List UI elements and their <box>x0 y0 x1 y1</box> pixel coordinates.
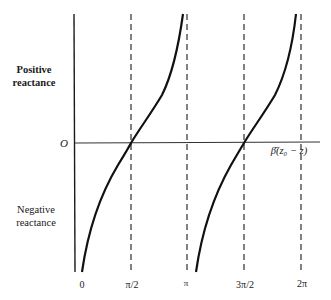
tick-label-pi: π <box>178 277 194 289</box>
y-axis <box>74 14 75 272</box>
negative-reactance-label: Negative reactance <box>6 203 66 229</box>
negative-label-line2: reactance <box>6 216 66 229</box>
positive-label-line1: Positive <box>4 63 64 76</box>
positive-label-line2: reactance <box>4 76 64 89</box>
tick-label-2pi: 2π <box>290 278 314 290</box>
negative-label-line1: Negative <box>6 203 66 216</box>
tick-label-pi-over-2: π/2 <box>118 279 146 291</box>
tick-label-0: 0 <box>74 279 90 291</box>
origin-label: O <box>58 137 70 149</box>
tick-label-3pi-over-2: 3π/2 <box>228 279 262 291</box>
x-axis <box>75 142 320 143</box>
positive-reactance-label: Positive reactance <box>4 63 64 89</box>
x-axis-variable-label: β̄(z₀ − z) <box>256 145 322 157</box>
